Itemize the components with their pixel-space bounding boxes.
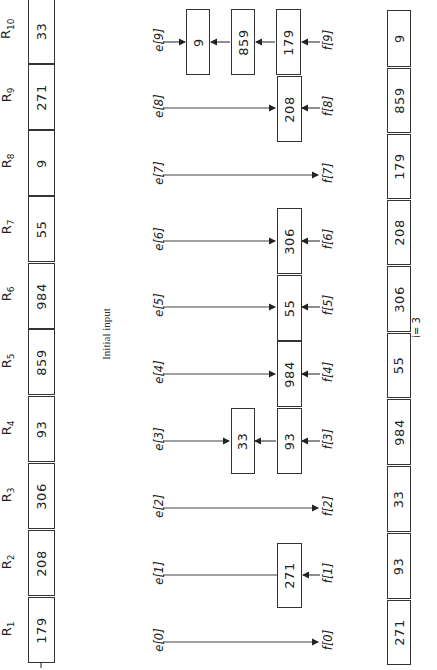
record-label-r5: R5 [0,353,16,368]
record-box-r6: 984 [28,263,55,329]
radix-sort-diagram: 179 208 306 93 859 984 55 9 271 33 R1 R2… [0,0,437,670]
record-box-r2: 208 [28,530,55,596]
e-label-2: e[2] [152,494,166,517]
output-node-9: 859 [387,68,411,133]
bucket-9-node-859: 859 [231,9,255,75]
output-node-2: 93 [387,533,411,599]
e-label-0: e[0] [152,628,166,651]
bucket-1-node-271: 271 [277,543,302,608]
output-node-8: 179 [387,134,411,199]
record-label-r3: R3 [0,487,16,502]
e-label-3: e[3] [152,427,166,450]
bucket-6-node-306: 306 [277,208,302,274]
record-label-r10: R10 [0,19,16,40]
record-box-r8: 9 [28,130,55,196]
f-label-1: f[1] [321,563,335,583]
record-label-r7: R7 [0,219,16,234]
record-label-r2: R2 [0,554,16,569]
record-box-r3: 306 [28,463,55,529]
bucket-5-node-55: 55 [277,275,302,341]
e-label-4: e[4] [152,360,166,383]
f-label-8: f[8] [321,96,335,116]
record-box-r9: 271 [28,64,55,130]
bucket-4-node-984: 984 [277,341,302,407]
pass-label: i= 3 [411,317,422,338]
e-label-5: e[5] [152,293,166,316]
record-label-r8: R8 [0,153,16,168]
bucket-9-node-179: 179 [276,9,301,75]
record-label-r9: R9 [0,87,16,102]
bucket-3-node-33: 33 [231,408,255,474]
f-label-4: f[4] [321,362,335,382]
record-box-r10: 33 [28,0,55,64]
output-node-6: 306 [387,266,411,332]
record-box-r7: 55 [28,196,55,262]
e-label-7: e[7] [152,161,166,184]
connector-lines [0,0,437,670]
output-node-1: 271 [387,600,411,665]
f-label-3: f[3] [321,429,335,449]
initial-input-caption: Initial input [100,308,112,360]
f-label-9: f[9] [321,30,335,50]
bucket-8-node-208: 208 [277,76,302,142]
e-label-1: e[1] [152,561,166,584]
bucket-9-node-9: 9 [186,9,210,75]
e-label-8: e[8] [152,94,166,117]
output-node-4: 984 [387,399,411,465]
f-label-6: f[6] [321,229,335,249]
output-node-5: 55 [387,333,411,398]
f-label-2: f[2] [321,496,335,516]
output-node-10: 9 [387,10,411,67]
record-box-r1: 179 [28,597,55,663]
record-label-r4: R4 [0,420,16,435]
record-label-r6: R6 [0,286,16,301]
bucket-3-node-93: 93 [277,408,302,474]
output-node-7: 208 [387,200,411,265]
record-box-r4: 93 [28,396,55,462]
f-label-0: f[0] [321,630,335,650]
e-label-6: e[6] [152,227,166,250]
output-node-3: 33 [387,466,411,532]
record-label-r1: R1 [0,621,16,636]
f-label-5: f[5] [321,295,335,315]
record-box-r5: 859 [28,329,55,395]
f-label-7: f[7] [321,163,335,183]
e-label-9: e[9] [152,28,166,51]
